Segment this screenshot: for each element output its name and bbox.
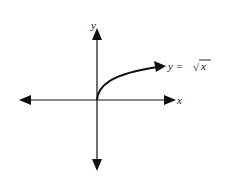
equation-prefix: y =: [167, 60, 186, 72]
y-axis-label: y: [90, 19, 96, 31]
x-axis-label: x: [176, 94, 182, 106]
curve-equation-label: y = √ x: [167, 60, 211, 73]
sqrt-graph: y x y = √ x: [0, 0, 226, 179]
equation-argument: x: [200, 60, 206, 72]
x-axis-left-arrow-icon: [19, 95, 31, 105]
y-axis-down-arrow-icon: [92, 159, 102, 171]
sqrt-curve: [97, 61, 166, 100]
radical-sign-icon: √: [193, 61, 200, 73]
curve-arrow-icon: [154, 61, 166, 72]
x-axis-right-arrow-icon: [164, 95, 176, 105]
